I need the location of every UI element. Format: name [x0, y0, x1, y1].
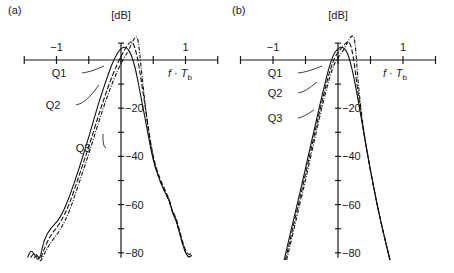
series-leader-q1 [82, 66, 104, 73]
series-leader-q1 [298, 66, 322, 73]
series-leader-q3 [103, 134, 106, 148]
series-leader-q3 [298, 110, 314, 118]
figure: (a)−11f · Tb−20−40−60−80[dB]Q1Q2Q3 (b)−1… [0, 0, 454, 273]
y-tick-label: −80 [125, 247, 144, 259]
y-axis-label: [dB] [111, 9, 131, 21]
y-tick-label: −40 [125, 150, 144, 162]
series-label-q2: Q2 [268, 87, 283, 99]
series-label-q3: Q3 [268, 112, 283, 124]
x-tick-label: −1 [267, 41, 280, 53]
y-tick-label: −40 [342, 150, 361, 162]
y-tick-label: −80 [342, 247, 361, 259]
series-label-q1: Q1 [52, 67, 67, 79]
y-tick-label: −60 [342, 199, 361, 211]
series-label-q1: Q1 [268, 67, 283, 79]
y-tick-label: −20 [342, 102, 361, 114]
panel-label: (a) [8, 4, 21, 16]
series-leader-q2 [298, 82, 317, 93]
panel-a: (a)−11f · Tb−20−40−60−80[dB]Q1Q2Q3 [8, 4, 218, 261]
y-axis-label: [dB] [328, 9, 348, 21]
panel-label: (b) [232, 4, 245, 16]
series-label-q3: Q3 [76, 142, 91, 154]
series-q1-line [284, 47, 390, 260]
series-leader-q2 [76, 85, 99, 105]
series-label-q2: Q2 [46, 99, 61, 111]
x-tick-label: −1 [50, 41, 63, 53]
y-tick-label: −20 [125, 102, 144, 114]
x-tick-label: 1 [400, 41, 406, 53]
x-axis-label: f · Tb [168, 67, 193, 82]
panel-b: (b)−11f · Tb−20−40−60−80[dB]Q1Q2Q3 [232, 4, 436, 260]
y-tick-label: −60 [125, 199, 144, 211]
x-axis-label: f · Tb [383, 67, 408, 82]
x-tick-label: 1 [182, 41, 188, 53]
